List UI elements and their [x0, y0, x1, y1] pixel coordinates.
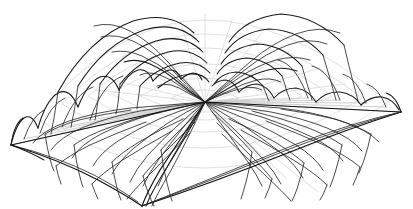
surface-wireframe-svg — [0, 0, 413, 209]
surface-figure — [0, 0, 413, 209]
